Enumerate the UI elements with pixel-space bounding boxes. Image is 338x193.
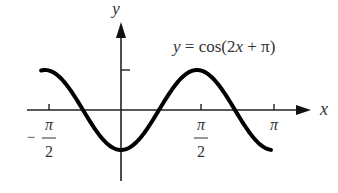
- tick-label-pi: π: [270, 116, 279, 133]
- tick-label-neg-minus: −: [27, 129, 35, 145]
- equation-label: y = cos(2x + π): [171, 37, 275, 56]
- eq-rest: = cos(2: [181, 37, 236, 56]
- y-axis-arrow-icon: [116, 22, 126, 38]
- eq-tail: + π): [243, 37, 275, 56]
- x-axis-arrow-icon: [296, 105, 311, 115]
- cosine-graph: y x y = cos(2x + π) − π 2 π 2 π: [0, 0, 338, 193]
- tick-label-pi-half-pi: π: [197, 116, 206, 133]
- y-axis-label: y: [110, 0, 120, 18]
- eq-y: y: [171, 37, 181, 56]
- tick-label-neg-two: 2: [45, 143, 53, 160]
- x-axis-label: x: [319, 99, 328, 119]
- tick-label-neg-pi: π: [45, 116, 54, 133]
- tick-label-pi-half-two: 2: [197, 143, 205, 160]
